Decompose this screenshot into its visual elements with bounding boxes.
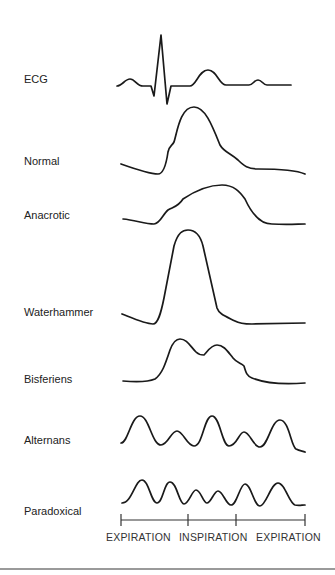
phase-label-inspiration: INSPIRATION (179, 531, 248, 543)
bottom-divider (0, 568, 335, 570)
anacrotic-trace (123, 185, 305, 224)
paradoxical-trace (122, 480, 305, 506)
phase-label-expiration-1: EXPIRATION (106, 531, 171, 543)
respiration-axis (121, 514, 305, 526)
waveforms-svg (0, 0, 335, 575)
alternans-trace (121, 416, 305, 452)
waterhammer-trace (122, 230, 305, 324)
phase-label-expiration-2: EXPIRATION (256, 531, 321, 543)
ecg-trace (117, 35, 291, 104)
normal-trace (121, 107, 305, 174)
bisferiens-trace (123, 339, 305, 384)
